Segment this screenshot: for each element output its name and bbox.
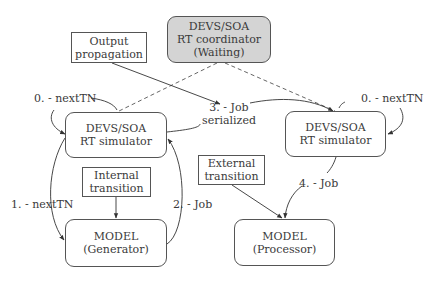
job-2-arrow bbox=[167, 139, 182, 244]
next-tn-1-label: 1. - nextTN bbox=[11, 198, 73, 211]
left-next-tn-0-label: 0. - nextTN bbox=[34, 92, 96, 105]
output-propagation-line2: propagation bbox=[75, 48, 143, 61]
generator-model-line2: (Generator) bbox=[83, 243, 149, 256]
processor-model-node: MODEL (Processor) bbox=[234, 219, 335, 266]
coordinator-line3: (Waiting) bbox=[193, 46, 244, 59]
job-4-label: 4. - Job bbox=[299, 177, 338, 190]
job-4-curve-top bbox=[327, 157, 336, 173]
right-self-loop-arrow bbox=[388, 108, 403, 134]
external-transition-line1: External bbox=[208, 157, 256, 170]
external-transition-box: External transition bbox=[198, 155, 265, 185]
output-propagation-box: Output propagation bbox=[71, 32, 147, 63]
right-next-tn-0-label: 0. - nextTN bbox=[361, 92, 423, 105]
job-serialized-3-line2: serialized bbox=[202, 114, 256, 127]
processor-model-line2: (Processor) bbox=[253, 243, 317, 256]
right-self-loop-top bbox=[339, 102, 345, 108]
next-tn-1-arrow bbox=[51, 138, 65, 240]
external-transition-line2: transition bbox=[204, 170, 258, 183]
internal-transition-box: Internal transition bbox=[82, 167, 151, 197]
external-transition-arrow bbox=[232, 185, 282, 218]
job-serialized-curve-out bbox=[167, 124, 200, 132]
left-simulator-line2: RT simulator bbox=[80, 135, 152, 148]
job-2-label: 2. - Job bbox=[173, 198, 212, 211]
coordinator-line1: DEVS/SOA bbox=[189, 20, 250, 33]
left-simulator-line1: DEVS/SOA bbox=[86, 122, 147, 135]
processor-model-line1: MODEL bbox=[262, 230, 306, 243]
coordinator-line2: RT coordinator bbox=[177, 33, 261, 46]
job-serialized-3-line1: 3. - Job bbox=[202, 101, 256, 114]
job-4-arrow bbox=[285, 186, 302, 218]
left-rt-simulator-node: DEVS/SOA RT simulator bbox=[65, 112, 167, 158]
internal-transition-line2: transition bbox=[89, 182, 143, 195]
right-rt-simulator-node: DEVS/SOA RT simulator bbox=[285, 111, 386, 157]
generator-model-node: MODEL (Generator) bbox=[65, 219, 167, 267]
output-propagation-line1: Output bbox=[89, 35, 128, 48]
internal-transition-line1: Internal bbox=[94, 169, 139, 182]
left-self-loop-arrow bbox=[51, 110, 65, 134]
right-simulator-line2: RT simulator bbox=[300, 134, 372, 147]
rt-coordinator-node: DEVS/SOA RT coordinator (Waiting) bbox=[167, 16, 271, 63]
right-simulator-line1: DEVS/SOA bbox=[305, 121, 366, 134]
job-serialized-3-label: 3. - Job serialized bbox=[202, 101, 256, 127]
job-serialized-curve-in bbox=[250, 99, 333, 111]
generator-model-line1: MODEL bbox=[94, 230, 138, 243]
